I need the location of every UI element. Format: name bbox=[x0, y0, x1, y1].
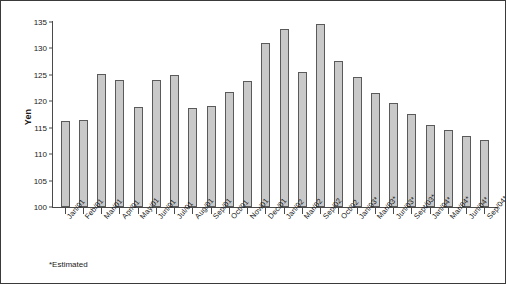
bar bbox=[97, 74, 106, 207]
bar-slot bbox=[74, 22, 92, 207]
x-label-slot: Oct/02 bbox=[330, 214, 348, 260]
y-tick-label: 115 bbox=[34, 123, 47, 132]
x-label-slot: Sep/02 bbox=[312, 214, 330, 260]
x-label-slot: Jun/03* bbox=[385, 214, 403, 260]
x-label-slot: Jun/04* bbox=[458, 214, 476, 260]
bar-slot bbox=[257, 22, 275, 207]
bar-slot bbox=[56, 22, 74, 207]
x-label-slot: Mar/04* bbox=[439, 214, 457, 260]
x-label-slot: Sept/03* bbox=[403, 214, 421, 260]
bar-series bbox=[53, 22, 497, 207]
x-label-slot: Jan/04* bbox=[421, 214, 439, 260]
bar-slot bbox=[348, 22, 366, 207]
bar-slot bbox=[239, 22, 257, 207]
bar-slot bbox=[93, 22, 111, 207]
bar bbox=[316, 24, 325, 207]
chart-figure: Yen 100105110115120125130135 Jan/01Feb/0… bbox=[0, 0, 506, 284]
bar bbox=[389, 103, 398, 207]
bar-slot bbox=[202, 22, 220, 207]
y-tick: 110 bbox=[34, 150, 53, 159]
x-label-slot: Feb/01 bbox=[74, 214, 92, 260]
x-label-slot: Apr/01 bbox=[111, 214, 129, 260]
y-tick: 120 bbox=[34, 97, 53, 106]
x-label-slot: Jan/03* bbox=[348, 214, 366, 260]
bar-slot bbox=[220, 22, 238, 207]
y-tick-label: 110 bbox=[34, 150, 47, 159]
bar bbox=[280, 29, 289, 207]
bar-slot bbox=[184, 22, 202, 207]
y-tick: 135 bbox=[34, 18, 53, 27]
bar bbox=[353, 77, 362, 207]
bar bbox=[407, 114, 416, 207]
bar-slot bbox=[111, 22, 129, 207]
bar bbox=[243, 81, 252, 207]
bar bbox=[61, 121, 70, 207]
bar bbox=[188, 108, 197, 207]
x-label-slot: May/01 bbox=[129, 214, 147, 260]
bar bbox=[261, 43, 270, 207]
y-tick: 130 bbox=[34, 44, 53, 53]
bar-slot bbox=[166, 22, 184, 207]
bar-slot bbox=[129, 22, 147, 207]
bar bbox=[79, 120, 88, 207]
x-label-slot: Oct/01 bbox=[220, 214, 238, 260]
y-tick-label: 105 bbox=[34, 176, 47, 185]
y-tick-label: 100 bbox=[34, 203, 47, 212]
bar-slot bbox=[147, 22, 165, 207]
y-tick: 125 bbox=[34, 70, 53, 79]
y-tick: 115 bbox=[34, 123, 53, 132]
bar bbox=[207, 106, 216, 207]
bar-slot bbox=[312, 22, 330, 207]
bar bbox=[334, 61, 343, 207]
x-label-slot: Mar/03* bbox=[366, 214, 384, 260]
bar-slot bbox=[330, 22, 348, 207]
x-label-slot: Nov/01 bbox=[239, 214, 257, 260]
x-label-slot: Mar/02 bbox=[293, 214, 311, 260]
y-tick-label: 130 bbox=[34, 44, 47, 53]
bar bbox=[298, 72, 307, 207]
bar-slot bbox=[458, 22, 476, 207]
bar bbox=[225, 92, 234, 207]
x-label-slot: Dec/01 bbox=[257, 214, 275, 260]
x-label-slot: Jul/01 bbox=[166, 214, 184, 260]
bar-slot bbox=[275, 22, 293, 207]
bar bbox=[152, 80, 161, 207]
x-axis-labels: Jan/01Feb/01Mar/01Apr/01May/01Jun/01Jul/… bbox=[53, 214, 497, 260]
bar bbox=[134, 107, 143, 207]
y-tick-label: 135 bbox=[34, 18, 47, 27]
bar-slot bbox=[366, 22, 384, 207]
bar-slot bbox=[293, 22, 311, 207]
bar bbox=[115, 80, 124, 207]
x-label-slot: Jan/01 bbox=[56, 214, 74, 260]
y-tick-label: 125 bbox=[34, 70, 47, 79]
x-label-slot: Sep/01 bbox=[202, 214, 220, 260]
bar bbox=[170, 75, 179, 207]
bar-slot bbox=[385, 22, 403, 207]
x-label-slot: Jun/01 bbox=[147, 214, 165, 260]
bar-slot bbox=[476, 22, 494, 207]
y-tick-label: 120 bbox=[34, 97, 47, 106]
y-tick: 100 bbox=[34, 203, 53, 212]
bar-slot bbox=[421, 22, 439, 207]
x-label-slot: Mar/01 bbox=[93, 214, 111, 260]
bar bbox=[371, 93, 380, 207]
bar-slot bbox=[403, 22, 421, 207]
bar-slot bbox=[439, 22, 457, 207]
y-tick: 105 bbox=[34, 176, 53, 185]
chart-footnote: *Estimated bbox=[49, 260, 88, 269]
x-label-slot: Aug/01 bbox=[184, 214, 202, 260]
plot-area: 100105110115120125130135 bbox=[53, 22, 497, 207]
x-label-slot: Jan/02 bbox=[275, 214, 293, 260]
x-label-slot: Sep/04* bbox=[476, 214, 494, 260]
